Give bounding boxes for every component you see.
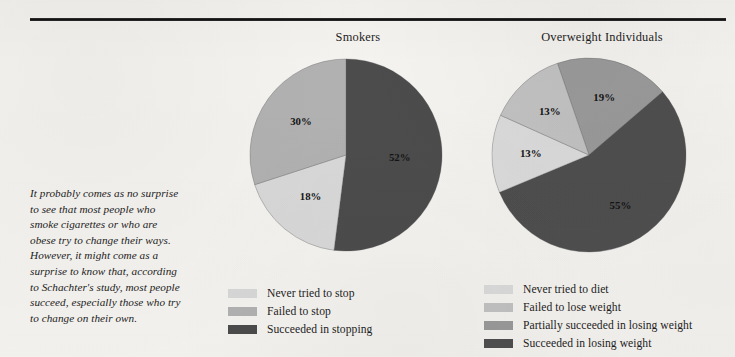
legend-overweight: Never tried to dietFailed to lose weight… <box>484 281 692 353</box>
legend-swatch <box>228 325 257 334</box>
legend-item[interactable]: Failed to lose weight <box>484 299 692 316</box>
figure-caption: It probably comes as no surprise to see … <box>30 186 182 326</box>
pie-slice-label: 52% <box>389 151 411 163</box>
legend-item-label: Succeeded in losing weight <box>523 337 651 350</box>
pie-chart-smokers: 52%18%30% <box>248 57 444 253</box>
pie-slice-label: 19% <box>593 91 615 103</box>
legend-item[interactable]: Never tried to stop <box>228 285 372 302</box>
legend-swatch <box>484 303 513 312</box>
pie-slice-label: 13% <box>539 105 561 117</box>
legend-item[interactable]: Failed to stop <box>228 303 372 320</box>
legend-swatch <box>484 339 513 348</box>
figure-page: It probably comes as no surprise to see … <box>0 0 735 357</box>
pie-svg-overweight: 19%55%13%13% <box>490 56 688 254</box>
pie-slice-label: 30% <box>290 115 312 127</box>
legend-swatch <box>228 307 257 316</box>
pie-slice-label: 18% <box>300 190 322 202</box>
legend-swatch <box>484 285 513 294</box>
legend-item-label: Partially succeeded in losing weight <box>523 319 692 332</box>
legend-swatch <box>484 321 513 330</box>
legend-item-label: Failed to lose weight <box>523 301 621 314</box>
legend-item-label: Succeeded in stopping <box>267 323 372 336</box>
legend-item-label: Never tried to diet <box>523 283 609 296</box>
legend-item[interactable]: Never tried to diet <box>484 281 692 298</box>
legend-smokers: Never tried to stopFailed to stopSucceed… <box>228 285 372 339</box>
legend-item[interactable]: Partially succeeded in losing weight <box>484 317 692 334</box>
chart-title-overweight: Overweight Individuals <box>476 30 728 45</box>
pie-chart-overweight: 19%55%13%13% <box>490 56 688 254</box>
pie-slice-label: 55% <box>610 199 632 211</box>
pie-slice-label: 13% <box>520 147 542 159</box>
header-rule <box>30 18 726 21</box>
legend-item[interactable]: Succeeded in stopping <box>228 321 372 338</box>
legend-item-label: Failed to stop <box>267 305 331 318</box>
pie-svg-smokers: 52%18%30% <box>248 57 444 253</box>
chart-title-smokers: Smokers <box>238 30 478 45</box>
legend-swatch <box>228 289 257 298</box>
legend-item-label: Never tried to stop <box>267 287 355 300</box>
legend-item[interactable]: Succeeded in losing weight <box>484 335 692 352</box>
